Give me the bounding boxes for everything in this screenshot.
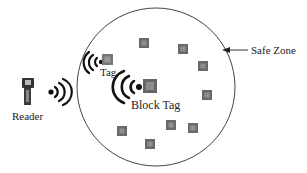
rfid-tag-icon — [202, 90, 212, 100]
reader-icon — [22, 78, 34, 105]
rfid-tag-icon — [145, 139, 155, 149]
block-tag-icon — [143, 79, 157, 93]
rfid-tag-icon — [139, 38, 149, 48]
rfid-tag-icon — [198, 61, 208, 71]
reader-label: Reader — [12, 110, 43, 122]
tag-icon — [102, 54, 113, 65]
rfid-tag-icon — [188, 123, 198, 133]
reader-signal-icon — [48, 79, 71, 105]
rfid-tag-icon — [166, 120, 176, 130]
rfid-tags — [117, 38, 212, 149]
rfid-tag-icon — [117, 126, 127, 136]
block-tag-label: Block Tag — [131, 99, 180, 111]
rfid-tag-icon — [178, 44, 188, 54]
safe-zone-arrow — [222, 47, 248, 53]
diagram-canvas — [0, 0, 307, 173]
safe-zone-label: Safe Zone — [251, 44, 296, 56]
tag-label: Tag — [100, 66, 116, 78]
